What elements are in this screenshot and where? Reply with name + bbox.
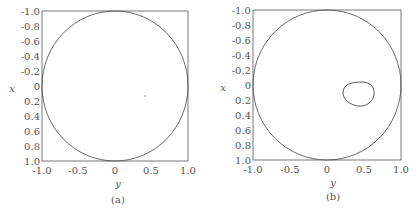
- svg-text:0.8: 0.8: [235, 140, 251, 151]
- svg-text:-0.5: -0.5: [68, 165, 87, 176]
- unit-circle: [253, 10, 401, 160]
- svg-text:-0.6: -0.6: [21, 36, 40, 47]
- svg-text:-0.5: -0.5: [280, 164, 299, 175]
- svg-text:0: 0: [34, 81, 40, 92]
- x-ticks: -1.0 -0.5 0 0.5 1.0: [32, 165, 196, 176]
- svg-text:0: 0: [324, 164, 330, 175]
- svg-text:-1.0: -1.0: [21, 6, 40, 17]
- x-ticks: -1.0 -0.5 0 0.5 1.0: [243, 164, 409, 175]
- svg-text:-0.6: -0.6: [232, 35, 251, 46]
- unit-circle: [42, 11, 188, 161]
- x-axis-label: y: [114, 178, 121, 189]
- figure: -1.0 -0.8 -0.6 -0.4 -0.2 0 0.2 0.4 0.6 0…: [0, 0, 420, 213]
- svg-text:-0.4: -0.4: [21, 51, 40, 62]
- svg-text:0: 0: [245, 80, 251, 91]
- svg-text:0.4: 0.4: [235, 110, 251, 121]
- data-point: [144, 95, 146, 97]
- svg-text:-0.8: -0.8: [21, 21, 40, 32]
- svg-text:1.0: 1.0: [180, 165, 196, 176]
- caption-a: (a): [111, 194, 125, 205]
- svg-text:0.6: 0.6: [24, 126, 40, 137]
- svg-text:0.5: 0.5: [143, 165, 159, 176]
- panel-a: -1.0 -0.8 -0.6 -0.4 -0.2 0 0.2 0.4 0.6 0…: [9, 6, 196, 205]
- svg-text:-0.2: -0.2: [21, 66, 40, 77]
- svg-text:-1.0: -1.0: [243, 164, 262, 175]
- plot-frame: [42, 11, 188, 161]
- y-ticks: -1.0 -0.8 -0.6 -0.4 -0.2 0 0.2 0.4 0.6 0…: [232, 5, 251, 166]
- svg-text:-1.0: -1.0: [32, 165, 51, 176]
- svg-text:0.2: 0.2: [24, 96, 40, 107]
- svg-text:0.6: 0.6: [235, 125, 251, 136]
- panel-b: -1.0 -0.8 -0.6 -0.4 -0.2 0 0.2 0.4 0.6 0…: [220, 5, 409, 202]
- plot-frame: [253, 10, 401, 160]
- svg-text:0.4: 0.4: [24, 111, 40, 122]
- y-axis-label: x: [220, 82, 226, 93]
- svg-text:0.2: 0.2: [235, 95, 251, 106]
- x-axis-label: y: [329, 177, 336, 188]
- svg-text:0.5: 0.5: [356, 164, 372, 175]
- svg-text:-0.2: -0.2: [232, 65, 251, 76]
- svg-text:-0.4: -0.4: [232, 50, 251, 61]
- caption-b: (b): [326, 191, 340, 202]
- svg-text:1.0: 1.0: [393, 164, 409, 175]
- svg-text:-0.8: -0.8: [232, 20, 251, 31]
- y-ticks: -1.0 -0.8 -0.6 -0.4 -0.2 0 0.2 0.4 0.6 0…: [21, 6, 40, 167]
- y-axis-label: x: [9, 83, 15, 94]
- svg-text:-1.0: -1.0: [232, 5, 251, 16]
- svg-text:0: 0: [112, 165, 118, 176]
- closed-loop-curve: [343, 82, 374, 106]
- svg-text:0.8: 0.8: [24, 141, 40, 152]
